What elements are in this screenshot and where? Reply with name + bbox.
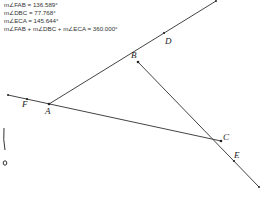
geometry-canvas[interactable]: A B C D E F xyxy=(0,0,261,204)
label-e: E xyxy=(233,150,240,160)
point-a[interactable] xyxy=(48,103,51,106)
endpoint-top[interactable] xyxy=(215,0,217,2)
segment-bc-ray[interactable] xyxy=(138,62,259,187)
pen-stroke-icon xyxy=(4,128,5,150)
label-a: A xyxy=(44,106,51,116)
point-b[interactable] xyxy=(137,61,140,64)
point-e[interactable] xyxy=(233,160,235,162)
point-d[interactable] xyxy=(163,32,165,34)
segment-ca-ray[interactable] xyxy=(8,95,221,141)
label-c: C xyxy=(223,132,230,142)
label-d: D xyxy=(164,36,172,46)
endpoint-bottom[interactable] xyxy=(258,186,260,188)
pen-dot-icon xyxy=(3,161,7,165)
label-b: B xyxy=(131,50,137,60)
point-c[interactable] xyxy=(220,140,223,143)
endpoint-left[interactable] xyxy=(7,94,9,96)
label-f: F xyxy=(21,99,28,109)
